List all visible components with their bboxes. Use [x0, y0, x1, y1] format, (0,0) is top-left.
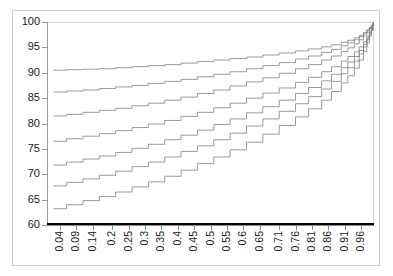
x-tick-label-0.45: 0.45: [188, 231, 198, 251]
y-tick-label-65: 65: [0, 194, 40, 205]
x-tick-0.55: [227, 226, 228, 230]
x-tick-label-0.91: 0.91: [339, 231, 349, 251]
x-tick-0.81: [312, 226, 313, 230]
x-tick-0.76: [296, 226, 297, 230]
y-tick-label-70: 70: [0, 168, 40, 179]
x-tick-label-0.5: 0.5: [205, 231, 215, 246]
x-tick-0.14: [93, 226, 94, 230]
y-axis-tick-labels: 6065707580859095100: [0, 0, 40, 276]
chart-figure: 6065707580859095100 0.040.090.140.20.250…: [0, 0, 393, 276]
x-tick-0.6: [243, 226, 244, 230]
x-tick-0.09: [76, 226, 77, 230]
y-tick-label-80: 80: [0, 118, 40, 129]
series-curve-7: [54, 22, 374, 209]
x-tick-label-0.76: 0.76: [290, 231, 300, 251]
y-tick-label-90: 90: [0, 67, 40, 78]
chart-series-layer: [47, 22, 374, 225]
x-tick-label-0.14: 0.14: [87, 231, 97, 251]
x-tick-0.91: [345, 226, 346, 230]
x-tick-label-0.81: 0.81: [306, 231, 316, 251]
x-tick-label-0.04: 0.04: [54, 231, 64, 251]
y-tick-label-100: 100: [0, 16, 40, 27]
x-tick-label-0.6: 0.6: [237, 231, 247, 246]
x-tick-label-0.65: 0.65: [254, 231, 264, 251]
x-tick-label-0.71: 0.71: [273, 231, 283, 251]
y-tick-60: [42, 225, 47, 226]
x-tick-0.3: [145, 226, 146, 230]
x-tick-label-0.4: 0.4: [172, 231, 182, 246]
x-tick-0.04: [60, 226, 61, 230]
x-tick-label-0.35: 0.35: [155, 231, 165, 251]
x-tick-label-0.55: 0.55: [221, 231, 231, 251]
x-tick-0.86: [328, 226, 329, 230]
x-tick-0.4: [178, 226, 179, 230]
series-curve-2: [54, 22, 374, 92]
x-tick-label-0.25: 0.25: [123, 231, 133, 251]
x-tick-0.65: [260, 226, 261, 230]
x-tick-0.45: [194, 226, 195, 230]
x-tick-label-0.86: 0.86: [322, 231, 332, 251]
x-tick-0.96: [361, 226, 362, 230]
y-tick-label-75: 75: [0, 143, 40, 154]
series-curve-4: [54, 22, 374, 141]
y-tick-label-60: 60: [0, 219, 40, 230]
x-tick-label-0.09: 0.09: [70, 231, 80, 251]
series-curve-1: [54, 22, 374, 70]
x-tick-label-0.96: 0.96: [355, 231, 365, 251]
x-tick-0.5: [211, 226, 212, 230]
x-tick-label-0.3: 0.3: [139, 231, 149, 246]
x-tick-label-0.2: 0.2: [106, 231, 116, 246]
x-tick-0.2: [112, 226, 113, 230]
x-tick-0.25: [129, 226, 130, 230]
x-tick-0.35: [161, 226, 162, 230]
x-tick-0.71: [279, 226, 280, 230]
y-tick-label-85: 85: [0, 92, 40, 103]
y-tick-label-95: 95: [0, 41, 40, 52]
